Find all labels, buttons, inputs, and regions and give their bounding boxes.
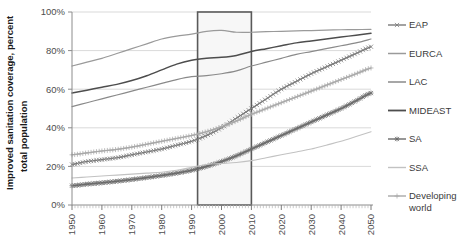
x-tick-label-1950: 1950 bbox=[66, 214, 77, 235]
y-tick-label-0: 0% bbox=[51, 199, 65, 210]
x-tick-label-1980: 1980 bbox=[156, 214, 167, 235]
x-tick-label-2000: 2000 bbox=[216, 214, 227, 235]
legend-item-mideast[interactable]: MIDEAST bbox=[388, 105, 451, 116]
y-axis-title: Improved sanitation coverage, percenttot… bbox=[4, 15, 29, 190]
legend: EAPEURCALACMIDEASTSASSADevelopingworld bbox=[388, 19, 457, 213]
legend-item-ssa[interactable]: SSA bbox=[388, 162, 429, 173]
x-tick-label-2030: 2030 bbox=[306, 214, 317, 235]
legend-item-developing-world[interactable]: Developingworld bbox=[388, 190, 457, 213]
legend-label: MIDEAST bbox=[409, 105, 451, 116]
y-axis-title-line2: total population bbox=[18, 101, 29, 172]
x-tick-label-2050: 2050 bbox=[365, 214, 376, 235]
x-tick-label-2020: 2020 bbox=[276, 214, 287, 235]
legend-item-eurca[interactable]: EURCA bbox=[388, 48, 443, 59]
legend-label: EURCA bbox=[409, 48, 443, 59]
legend-label-line2: world bbox=[408, 202, 432, 213]
legend-label: EAP bbox=[409, 19, 428, 30]
legend-marker-plus-icon bbox=[395, 194, 400, 199]
x-tick-label-1970: 1970 bbox=[126, 214, 137, 235]
x-tick-label-1960: 1960 bbox=[96, 214, 107, 235]
legend-label: Developing bbox=[409, 190, 457, 201]
legend-item-eap[interactable]: EAP bbox=[388, 19, 428, 30]
legend-item-sa[interactable]: SA bbox=[388, 133, 422, 144]
chart-canvas: 0%20%40%60%80%100%1950196019701980199020… bbox=[0, 0, 470, 249]
legend-label: SA bbox=[409, 133, 422, 144]
legend-label: LAC bbox=[409, 76, 428, 87]
x-axis-minor-ticks bbox=[72, 205, 371, 210]
x-axis-labels: 1950196019701980199020002010202020302040… bbox=[66, 214, 376, 235]
y-tick-label-100: 100% bbox=[41, 6, 66, 17]
legend-item-lac[interactable]: LAC bbox=[388, 76, 428, 87]
y-axis-title-line1: Improved sanitation coverage, percent bbox=[4, 15, 15, 190]
y-tick-label-40: 40% bbox=[46, 122, 66, 133]
highlight-box-1990-2010 bbox=[198, 12, 252, 205]
y-tick-label-60: 60% bbox=[46, 84, 66, 95]
y-tick-label-80: 80% bbox=[46, 45, 66, 56]
legend-label: SSA bbox=[409, 162, 429, 173]
legend-marker-asterisk-icon bbox=[395, 137, 400, 142]
x-tick-label-2010: 2010 bbox=[246, 214, 257, 235]
y-tick-label-20: 20% bbox=[46, 161, 66, 172]
x-tick-label-2040: 2040 bbox=[336, 214, 347, 235]
x-tick-label-1990: 1990 bbox=[186, 214, 197, 235]
sanitation-coverage-chart: 0%20%40%60%80%100%1950196019701980199020… bbox=[0, 0, 470, 249]
y-axis-ticks: 0%20%40%60%80%100% bbox=[41, 6, 72, 210]
